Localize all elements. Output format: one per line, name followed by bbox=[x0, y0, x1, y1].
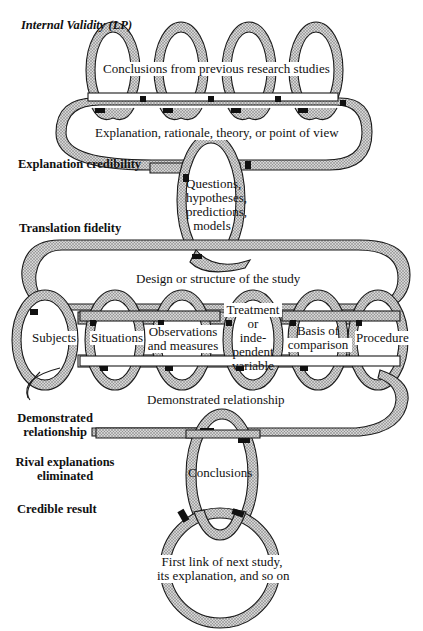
next-study-line2: its explanation, and so on bbox=[157, 569, 287, 583]
next-study-line1: First link of next study, bbox=[157, 555, 287, 569]
treatment-line5: variable bbox=[224, 359, 282, 373]
label-rival-line2: eliminated bbox=[14, 469, 116, 483]
chain-link-diagram: Internal Validity (LP) Explanation credi… bbox=[0, 0, 423, 631]
link-next-study: First link of next study, its explanatio… bbox=[157, 555, 287, 583]
questions-line1: Questions, bbox=[186, 177, 238, 191]
label-explanation-credibility: Explanation credibility bbox=[18, 157, 141, 171]
treatment-line4: pendent bbox=[224, 345, 282, 359]
link-explanation: Explanation, rationale, theory, or point… bbox=[93, 126, 341, 140]
chain-links-graphic bbox=[0, 0, 423, 631]
component-comparison: Basis of comparison bbox=[284, 324, 352, 352]
component-treatment: Treatment or inde- pendent variable bbox=[224, 303, 282, 373]
treatment-line2: or bbox=[224, 317, 282, 331]
link-questions: Questions, hypotheses, predictions, mode… bbox=[186, 177, 238, 233]
label-translation-fidelity: Translation fidelity bbox=[19, 221, 121, 235]
treatment-line3: inde- bbox=[224, 331, 282, 345]
label-rival-explanations: Rival explanations eliminated bbox=[14, 455, 116, 483]
label-demonstrated-relationship: Demonstrated relationship bbox=[16, 411, 94, 439]
observations-line2: and measures bbox=[147, 339, 219, 353]
treatment-line1: Treatment bbox=[224, 303, 282, 317]
comparison-line2: comparison bbox=[284, 338, 352, 352]
component-procedure: Procedure bbox=[355, 331, 410, 345]
questions-line2: hypotheses, bbox=[186, 191, 238, 205]
label-credible-result: Credible result bbox=[17, 502, 97, 516]
link-demonstrated-relationship: Demonstrated relationship bbox=[147, 393, 285, 407]
link-conclusions: Conclusions bbox=[188, 466, 252, 480]
link-design: Design or structure of the study bbox=[136, 272, 300, 286]
component-subjects: Subjects bbox=[31, 331, 77, 345]
label-demonstrated-line2: relationship bbox=[16, 425, 94, 439]
component-observations: Observations and measures bbox=[147, 325, 219, 353]
questions-line4: models bbox=[186, 219, 238, 233]
label-demonstrated-line1: Demonstrated bbox=[16, 411, 94, 425]
comparison-line1: Basis of bbox=[284, 324, 352, 338]
label-internal-validity: Internal Validity (LP) bbox=[21, 18, 132, 32]
component-situations: Situations bbox=[90, 331, 144, 345]
observations-line1: Observations bbox=[147, 325, 219, 339]
label-rival-line1: Rival explanations bbox=[14, 455, 116, 469]
questions-line3: predictions, bbox=[186, 205, 238, 219]
link-previous-research: Conclusions from previous research studi… bbox=[101, 62, 332, 76]
